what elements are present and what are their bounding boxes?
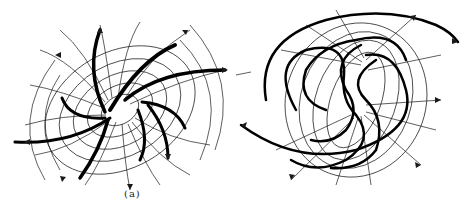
figure-b: (b) xyxy=(236,0,473,211)
figure-b-diagram xyxy=(236,0,473,211)
caption-a: (a) xyxy=(124,188,141,199)
figure-a-diagram xyxy=(0,0,236,211)
figure-a: (a) xyxy=(0,0,236,211)
